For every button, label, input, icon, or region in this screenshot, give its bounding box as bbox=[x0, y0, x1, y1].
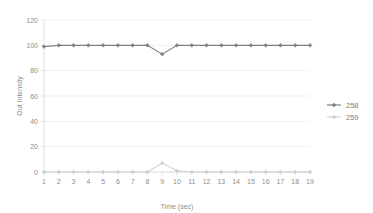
x-tick-label: 10 bbox=[173, 178, 181, 185]
data-point-marker bbox=[116, 170, 120, 174]
legend-marker bbox=[332, 115, 336, 119]
series-lines bbox=[42, 43, 312, 173]
data-point-marker bbox=[101, 170, 105, 174]
y-tick-label: 120 bbox=[26, 17, 38, 24]
data-point-marker bbox=[86, 43, 90, 47]
data-point-marker bbox=[293, 170, 297, 174]
x-tick-label: 5 bbox=[101, 178, 105, 185]
data-point-marker bbox=[279, 170, 283, 174]
x-axis-tick-labels: 12345678910111213141516171819 bbox=[42, 178, 314, 185]
x-axis-title: Time (sec) bbox=[161, 203, 194, 211]
data-point-marker bbox=[116, 43, 120, 47]
data-point-marker bbox=[279, 43, 283, 47]
y-tick-label: 60 bbox=[30, 93, 38, 100]
data-point-marker bbox=[190, 170, 194, 174]
data-point-marker bbox=[234, 170, 238, 174]
x-tick-label: 8 bbox=[145, 178, 149, 185]
data-point-marker bbox=[131, 43, 135, 47]
x-tick-label: 18 bbox=[291, 178, 299, 185]
y-tick-label: 80 bbox=[30, 67, 38, 74]
data-point-marker bbox=[264, 170, 268, 174]
data-point-marker bbox=[219, 43, 223, 47]
data-point-marker bbox=[57, 43, 61, 47]
y-axis-tick-labels: 020406080100120 bbox=[26, 17, 44, 176]
data-point-marker bbox=[308, 170, 312, 174]
legend-marker bbox=[332, 103, 336, 107]
x-tick-label: 3 bbox=[72, 178, 76, 185]
data-point-marker bbox=[308, 43, 312, 47]
x-tick-label: 7 bbox=[131, 178, 135, 185]
series-259 bbox=[42, 161, 312, 174]
series-258 bbox=[42, 43, 312, 56]
x-tick-label: 6 bbox=[116, 178, 120, 185]
data-point-marker bbox=[42, 170, 46, 174]
x-tick-label: 1 bbox=[42, 178, 46, 185]
x-tick-label: 17 bbox=[277, 178, 285, 185]
data-point-marker bbox=[234, 43, 238, 47]
x-tick-label: 19 bbox=[306, 178, 314, 185]
y-tick-label: 100 bbox=[26, 42, 38, 49]
line-chart: 020406080100120 123456789101112131415161… bbox=[0, 0, 373, 213]
x-tick-label: 4 bbox=[86, 178, 90, 185]
x-tick-label: 12 bbox=[203, 178, 211, 185]
x-tick-label: 14 bbox=[232, 178, 240, 185]
data-point-marker bbox=[190, 43, 194, 47]
data-point-marker bbox=[86, 170, 90, 174]
legend-label-259: 259 bbox=[346, 113, 359, 122]
data-point-marker bbox=[72, 170, 76, 174]
legend-label-258: 258 bbox=[346, 101, 359, 110]
legend: 258259 bbox=[327, 101, 359, 122]
data-point-marker bbox=[293, 43, 297, 47]
y-tick-label: 0 bbox=[34, 169, 38, 176]
y-axis-title: Out Intensity bbox=[16, 76, 24, 116]
x-tick-label: 15 bbox=[247, 178, 255, 185]
y-tick-label: 40 bbox=[30, 118, 38, 125]
data-point-marker bbox=[72, 43, 76, 47]
gridlines bbox=[44, 20, 310, 172]
data-point-marker bbox=[101, 43, 105, 47]
y-tick-label: 20 bbox=[30, 143, 38, 150]
x-tick-label: 16 bbox=[262, 178, 270, 185]
data-point-marker bbox=[205, 170, 209, 174]
data-point-marker bbox=[131, 170, 135, 174]
chart-container: 020406080100120 123456789101112131415161… bbox=[0, 0, 373, 213]
data-point-marker bbox=[249, 43, 253, 47]
x-tick-label: 2 bbox=[57, 178, 61, 185]
data-point-marker bbox=[205, 43, 209, 47]
data-point-marker bbox=[249, 170, 253, 174]
x-tick-label: 13 bbox=[217, 178, 225, 185]
data-point-marker bbox=[57, 170, 61, 174]
data-point-marker bbox=[264, 43, 268, 47]
x-tick-label: 11 bbox=[188, 178, 195, 185]
x-tick-label: 9 bbox=[160, 178, 164, 185]
data-point-marker bbox=[219, 170, 223, 174]
